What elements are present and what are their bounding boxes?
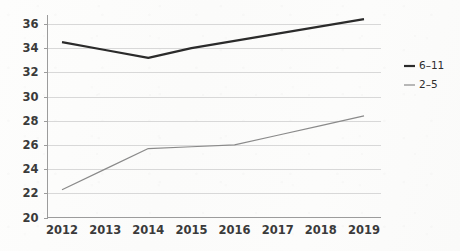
x-tick-label: 2012 — [46, 223, 78, 237]
x-tick-label: 2017 — [262, 223, 294, 237]
y-tick-label: 34 — [22, 41, 38, 55]
x-tick-label: 2015 — [175, 223, 207, 237]
y-tick-label: 24 — [22, 162, 38, 176]
x-tick-label: 2018 — [305, 223, 337, 237]
y-tick-label: 36 — [22, 17, 38, 31]
x-axis-tick-labels: 20122013201420152016201720182019 — [46, 223, 380, 237]
x-tick-label: 2014 — [132, 223, 164, 237]
y-tick-label: 30 — [22, 90, 38, 104]
x-tick-label: 2019 — [348, 223, 380, 237]
x-tick-label: 2013 — [89, 223, 121, 237]
data-series-group — [62, 19, 364, 190]
y-tick-label: 32 — [22, 65, 38, 79]
gridlines-group — [48, 25, 382, 194]
x-tick-label: 2016 — [219, 223, 251, 237]
y-tick-marks-group — [44, 25, 48, 219]
series-line-2-5 — [62, 116, 364, 190]
y-tick-label: 20 — [22, 211, 38, 225]
y-tick-label: 22 — [22, 186, 38, 200]
line-chart: 202224262830323436 201220132014201520162… — [0, 0, 460, 251]
y-axis-tick-labels: 202224262830323436 — [22, 17, 38, 225]
legend-label-6-11: 6–11 — [419, 59, 444, 71]
chart-canvas: 202224262830323436 201220132014201520162… — [0, 0, 460, 251]
y-tick-label: 26 — [22, 138, 38, 152]
chart-legend: 6–112–5 — [404, 59, 444, 90]
legend-label-2-5: 2–5 — [419, 78, 438, 90]
y-tick-label: 28 — [22, 114, 38, 128]
